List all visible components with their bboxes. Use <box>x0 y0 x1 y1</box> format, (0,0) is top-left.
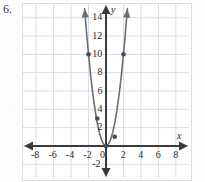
data-point <box>121 52 126 57</box>
y-tick-label: 12 <box>92 30 102 41</box>
data-point <box>112 134 117 139</box>
x-tick-label: 6 <box>156 149 161 160</box>
y-tick-label: 4 <box>98 103 103 114</box>
x-axis-right-arrow <box>179 141 188 150</box>
x-tick-label: 4 <box>138 149 143 160</box>
x-tick-label: 8 <box>173 149 178 160</box>
margin-mark: · <box>8 103 12 107</box>
y-tick-label: 14 <box>92 11 102 22</box>
x-tick-label: -2 <box>83 149 91 160</box>
y-tick-label: 10 <box>92 48 102 59</box>
problem-number: 6. <box>3 2 12 17</box>
y-tick-label: 2 <box>98 121 103 132</box>
x-tick-label: -6 <box>48 149 56 160</box>
data-point <box>104 144 109 149</box>
y-tick-label: 8 <box>98 66 103 77</box>
y-axis-up-arrow <box>102 5 111 14</box>
y-tick-label: 6 <box>98 85 103 96</box>
origin-label: 0 <box>100 149 105 160</box>
y-axis-name: y <box>111 4 115 15</box>
worksheet-page: 6. · -8-6-4-2024681412108642-2 xy <box>0 0 205 182</box>
data-point <box>86 52 91 57</box>
data-point <box>95 116 100 121</box>
graph-frame: -8-6-4-2024681412108642-2 xy <box>22 3 192 181</box>
x-tick-label: -4 <box>66 149 74 160</box>
x-tick-label: -8 <box>31 149 39 160</box>
x-tick-label: 2 <box>121 149 126 160</box>
y-axis-down-arrow <box>102 168 111 177</box>
x-axis-name: x <box>177 130 181 141</box>
y-tick-label: -2 <box>92 158 100 169</box>
